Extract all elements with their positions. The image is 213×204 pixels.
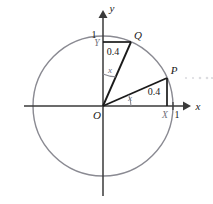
x-axis-arrowhead [183, 102, 191, 111]
angle-p-label: x [127, 93, 132, 103]
p-height-value: 0.4 [148, 86, 161, 97]
x-unit-label: 1 [175, 109, 180, 120]
unit-circle-diagram: y x 1 1 O P Q X Y 0.4 0.4 x x [0, 0, 213, 204]
foot-x-label: X [161, 110, 169, 120]
q-width-value: 0.4 [107, 46, 120, 57]
unit-circle-figure: y x 1 1 O P Q X Y 0.4 0.4 x x [0, 0, 213, 204]
angle-q-label: x [107, 65, 112, 75]
y-axis-label: y [109, 2, 115, 14]
origin-label: O [93, 109, 101, 121]
edge-dots-decoration [185, 77, 213, 80]
point-q-label: Q [134, 29, 142, 41]
foot-y-label: Y [94, 38, 101, 48]
y-axis-arrowhead [99, 10, 108, 18]
point-p-label: P [170, 64, 178, 76]
x-axis-label: x [195, 100, 201, 112]
